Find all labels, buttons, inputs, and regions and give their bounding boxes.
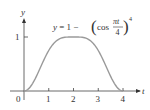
x-axis-arrow-icon: [136, 89, 141, 93]
x-tick-label-2: 2: [71, 94, 76, 104]
chart: y t 1 0 1 2 3 4 y = 1 − ( cos πt 4 ) 4: [0, 0, 150, 110]
svg-text:y = 1 −: y = 1 −: [52, 22, 78, 32]
formula-exponent: 4: [129, 16, 132, 22]
x-tick-label-1: 1: [46, 94, 51, 104]
right-paren: ): [123, 17, 129, 36]
x-tick-label-0: 0: [16, 94, 21, 104]
formula-func: cos: [97, 22, 109, 32]
x-tick-label-3: 3: [96, 94, 101, 104]
formula-numerator: πt: [113, 17, 120, 26]
x-tick-label-4: 4: [121, 94, 126, 104]
formula-annotation: y = 1 − ( cos πt 4 ) 4: [52, 16, 132, 37]
y-axis-label: y: [20, 7, 25, 17]
curve-series: [24, 37, 123, 91]
formula-denominator: 4: [116, 28, 120, 37]
x-axis-label: t: [142, 86, 145, 96]
y-tick-label-1: 1: [15, 32, 20, 42]
x-ticks: [49, 88, 123, 91]
y-axis-arrow-icon: [22, 18, 26, 23]
